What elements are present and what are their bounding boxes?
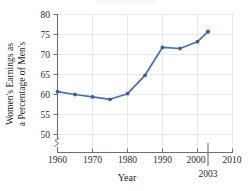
x-axis-title: Year (118, 172, 137, 183)
year-2003-annotation-label: 2003 (199, 169, 218, 179)
data-point (196, 40, 200, 44)
data-point (108, 97, 112, 101)
y-tick-label: 70 (41, 50, 51, 60)
data-point (56, 90, 60, 94)
x-tick-label: 1980 (118, 155, 137, 165)
data-series-womens-earnings (56, 30, 211, 102)
y-axis-title: Women's Earnings as a Percentage of Men'… (4, 41, 27, 126)
y-tick-label: 80 (41, 10, 51, 20)
x-tick-label: 1970 (83, 155, 102, 165)
y-tick-labels: 80 75 70 65 60 55 50 (41, 10, 51, 140)
data-point (73, 93, 77, 97)
x-axis-ticks (58, 149, 233, 153)
data-point (91, 95, 95, 99)
series-markers (56, 30, 211, 102)
y-axis-ticks (54, 15, 58, 135)
axis-break-icon (55, 138, 59, 146)
data-point (143, 73, 147, 77)
y-tick-label: 55 (41, 110, 51, 120)
line-chart: 80 75 70 65 60 55 50 1960 1970 (0, 0, 249, 191)
series-line (58, 32, 209, 100)
data-point (161, 45, 165, 49)
data-point (178, 47, 182, 51)
x-tick-label: 1960 (48, 155, 67, 165)
x-tick-labels: 1960 1970 1980 1990 2000 2010 (48, 155, 242, 165)
x-tick-label: 2000 (187, 155, 206, 165)
y-axis-title-line2: a Percentage of Men's (16, 41, 27, 126)
figure-container: 80 75 70 65 60 55 50 1960 1970 (0, 0, 249, 191)
y-axis-title-line1: Women's Earnings as (4, 43, 15, 125)
x-tick-label: 1990 (153, 155, 172, 165)
x-tick-label: 2010 (223, 155, 242, 165)
y-tick-label: 60 (41, 90, 51, 100)
grid-lines (57, 14, 233, 152)
y-tick-label: 50 (41, 130, 51, 140)
y-tick-label: 75 (41, 30, 51, 40)
data-point (206, 30, 210, 34)
y-tick-label: 65 (41, 70, 51, 80)
data-point (126, 92, 130, 96)
